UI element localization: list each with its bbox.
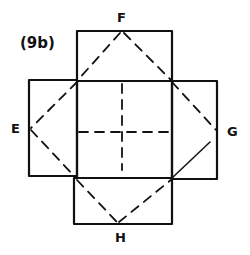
fold-line-h-to-bottom-right	[119, 179, 172, 222]
fold-line-right-to-g	[172, 82, 216, 130]
fold-line-g-to-corner	[172, 142, 210, 178]
vertex-label-g: G	[227, 125, 238, 138]
figure-label: (9b)	[20, 36, 55, 51]
fold-line-f-to-right	[124, 33, 172, 81]
center-square	[77, 81, 172, 178]
fold-line-e-to-bottom	[31, 130, 76, 178]
right-square	[172, 81, 217, 179]
top-square	[77, 31, 172, 81]
fold-line-left-to-e	[31, 82, 77, 128]
fold-line-bottom-left-to-h	[77, 180, 117, 222]
fold-line-f-to-left	[77, 33, 120, 81]
vertex-label-h: H	[115, 231, 126, 244]
left-square	[29, 80, 77, 176]
vertex-label-f: F	[117, 11, 126, 24]
vertex-label-e: E	[11, 122, 20, 135]
bottom-square	[74, 178, 172, 224]
